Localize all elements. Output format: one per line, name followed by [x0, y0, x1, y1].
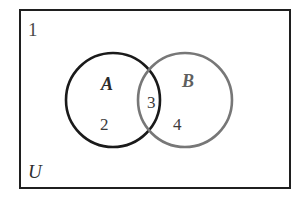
universe-symbol-label: U — [28, 162, 42, 181]
region-b-only-value: 4 — [173, 116, 182, 133]
set-a-label: A — [101, 75, 113, 93]
set-b-label: B — [182, 72, 194, 90]
venn-diagram-figure: 1 U A B 2 3 4 — [0, 0, 306, 203]
region-a-only-value: 2 — [100, 116, 109, 133]
region-intersection-value: 3 — [147, 94, 156, 111]
universe-outside-count-label: 1 — [28, 20, 38, 39]
